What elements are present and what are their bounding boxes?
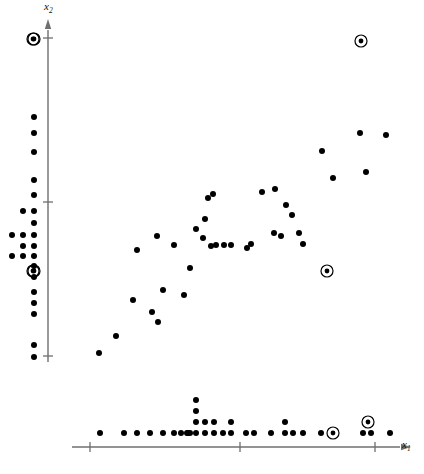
scatter-point-16 bbox=[210, 191, 216, 197]
scatter-point-29 bbox=[300, 241, 306, 247]
x-marginal-dot-23-marker bbox=[268, 430, 274, 436]
y-marginal-dot-6 bbox=[20, 208, 26, 214]
x-marginal-outlier-dot-29 bbox=[327, 427, 339, 439]
scatter-point-11 bbox=[193, 226, 199, 232]
scatter-point-5 bbox=[154, 233, 160, 239]
scatter-point-26 bbox=[283, 202, 289, 208]
scatter-point-4 bbox=[149, 309, 155, 315]
scatter-point-18 bbox=[221, 242, 227, 248]
scatter-point-2 bbox=[130, 297, 136, 303]
x-marginal-dot-28-marker bbox=[318, 430, 324, 436]
x-marginal-outlier-dot-32-marker bbox=[366, 420, 371, 425]
scatter-point-30-marker bbox=[319, 148, 325, 154]
y-marginal-dot-23 bbox=[31, 342, 37, 348]
scatter-outlier-point-36-marker bbox=[325, 269, 330, 274]
scatter-outlier-point-35-marker bbox=[359, 39, 364, 44]
x-marginal-dot-6-marker bbox=[178, 430, 184, 436]
y-marginal-dot-4 bbox=[31, 177, 37, 183]
scatter-point-19-marker bbox=[228, 242, 234, 248]
x-marginal-dot-15 bbox=[202, 419, 208, 425]
scatter-point-31-marker bbox=[330, 175, 336, 181]
scatter-point-15-marker bbox=[208, 243, 214, 249]
y-marginal-dot-5 bbox=[31, 192, 37, 198]
y-marginal-dot-22-marker bbox=[31, 311, 37, 317]
y-marginal-dot-20 bbox=[31, 289, 37, 295]
scatter-point-14 bbox=[205, 195, 211, 201]
y-marginal-dot-1 bbox=[31, 114, 37, 120]
x-marginal-dot-14-marker bbox=[202, 430, 208, 436]
scatter-point-34 bbox=[383, 132, 389, 138]
x-axis-label-subscript: 1 bbox=[407, 444, 411, 453]
x-marginal-outlier-dot-32 bbox=[362, 416, 374, 428]
x-marginal-dot-13 bbox=[193, 397, 199, 403]
x-marginal-dot-19 bbox=[228, 430, 234, 436]
x-marginal-dot-27 bbox=[300, 430, 306, 436]
y-marginal-dot-24-marker bbox=[31, 354, 37, 360]
scatter-point-13 bbox=[202, 216, 208, 222]
y-marginal-dot-23-marker bbox=[31, 342, 37, 348]
y-marginal-dot-7-marker bbox=[31, 208, 37, 214]
scatter-point-24 bbox=[272, 186, 278, 192]
scatter-point-32-marker bbox=[357, 130, 363, 136]
x-marginal-dot-4 bbox=[160, 430, 166, 436]
scatter-point-8-marker bbox=[171, 242, 177, 248]
x-marginal-dot-4-marker bbox=[160, 430, 166, 436]
y-marginal-dot-8 bbox=[31, 220, 37, 226]
y-marginal-dot-2 bbox=[31, 130, 37, 136]
scatter-point-18-marker bbox=[221, 242, 227, 248]
scatter-point-31 bbox=[330, 175, 336, 181]
y-marginal-dot-15-marker bbox=[20, 253, 26, 259]
scatter-point-0 bbox=[96, 350, 102, 356]
x-marginal-dot-24-marker bbox=[282, 430, 288, 436]
x-marginal-dot-18 bbox=[220, 430, 226, 436]
x-marginal-dot-0 bbox=[97, 430, 103, 436]
x-marginal-dot-15-marker bbox=[202, 419, 208, 425]
x-marginal-dot-25 bbox=[282, 419, 288, 425]
y-marginal-dot-16 bbox=[9, 253, 15, 259]
scatter-point-34-marker bbox=[383, 132, 389, 138]
scatter-point-14-marker bbox=[205, 195, 211, 201]
x-marginal-dot-33-marker bbox=[387, 430, 393, 436]
y-marginal-dot-4-marker bbox=[31, 177, 37, 183]
y-axis-label-subscript: 2 bbox=[49, 6, 53, 15]
scatter-point-22-marker bbox=[259, 189, 265, 195]
y-marginal-dot-11 bbox=[9, 232, 15, 238]
scatter-point-23 bbox=[271, 230, 277, 236]
scatter-point-30 bbox=[319, 148, 325, 154]
x-marginal-dot-17-marker bbox=[211, 419, 217, 425]
x-marginal-dot-30-marker bbox=[360, 430, 366, 436]
scatter-point-17-marker bbox=[213, 242, 219, 248]
scatter-point-27 bbox=[289, 212, 295, 218]
scatter-outlier-point-38-marker bbox=[31, 37, 36, 42]
y-marginal-dot-14-marker bbox=[31, 253, 37, 259]
scatter-point-19 bbox=[228, 242, 234, 248]
x-marginal-dot-21 bbox=[243, 430, 249, 436]
x-marginal-dot-16 bbox=[211, 430, 217, 436]
x-marginal-dot-28 bbox=[318, 430, 324, 436]
x-marginal-dot-26 bbox=[290, 430, 296, 436]
y-marginal-dot-15 bbox=[20, 253, 26, 259]
scatter-plot-figure: x2 x1 bbox=[0, 0, 424, 474]
x-marginal-dot-31 bbox=[368, 430, 374, 436]
x-axis-label: x1 bbox=[402, 438, 411, 453]
y-marginal-dot-8-marker bbox=[31, 220, 37, 226]
scatter-point-32 bbox=[357, 130, 363, 136]
x-marginal-dot-1 bbox=[121, 430, 127, 436]
scatter-point-8 bbox=[171, 242, 177, 248]
x-marginal-dot-5-marker bbox=[171, 430, 177, 436]
x-marginal-dot-1-marker bbox=[121, 430, 127, 436]
scatter-point-10-marker bbox=[187, 265, 193, 271]
scatter-point-1 bbox=[113, 333, 119, 339]
scatter-point-33-marker bbox=[363, 169, 369, 175]
scatter-point-33 bbox=[363, 169, 369, 175]
x-marginal-dot-27-marker bbox=[300, 430, 306, 436]
scatter-point-7-marker bbox=[160, 287, 166, 293]
scatter-point-23-marker bbox=[271, 230, 277, 236]
scatter-point-27-marker bbox=[289, 212, 295, 218]
x-marginal-dot-24 bbox=[282, 430, 288, 436]
x-marginal-dot-16-marker bbox=[211, 430, 217, 436]
scatter-point-3 bbox=[134, 247, 140, 253]
y-marginal-dot-13-marker bbox=[20, 243, 26, 249]
scatter-point-9 bbox=[181, 292, 187, 298]
x-marginal-dot-22-marker bbox=[251, 430, 257, 436]
